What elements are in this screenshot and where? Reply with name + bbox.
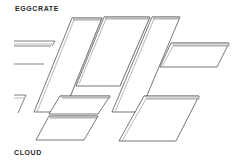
right-panel <box>160 43 229 67</box>
cloud-panel-1 <box>49 96 110 114</box>
left-strip-upper <box>14 41 55 46</box>
ceiling-panels-illustration <box>0 0 236 160</box>
cloud-panel-2 <box>36 116 98 140</box>
left-strip-lower <box>14 95 26 113</box>
cloud-label: CLOUD <box>14 149 42 156</box>
